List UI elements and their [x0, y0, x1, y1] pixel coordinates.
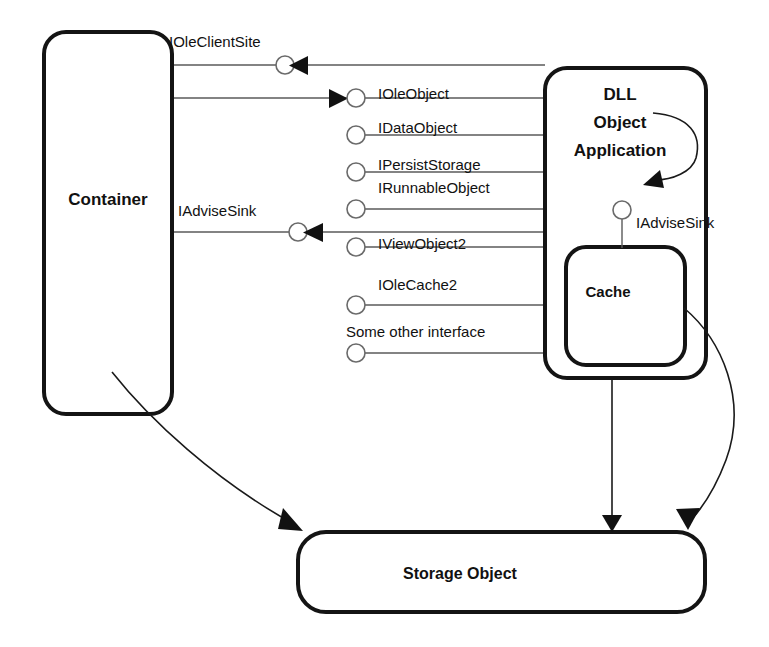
ole-architecture-diagram: Container DLL Object Application Cache S…	[0, 0, 769, 647]
dll-app-label-line1: DLL	[603, 85, 636, 104]
arrowhead-dll-to-storage	[602, 515, 622, 532]
lollipop-iolecache2[interactable]	[347, 296, 365, 314]
lollipop-iadvisesink-cache[interactable]	[613, 201, 631, 219]
lollipop-ipersiststorage[interactable]	[347, 163, 365, 181]
label-iadvisesink-cache: IAdviseSink	[636, 214, 715, 231]
dll-app-label-line2: Object	[594, 113, 647, 132]
label-iadvisesink-container: IAdviseSink	[178, 202, 257, 219]
label-ioleobject: IOleObject	[378, 85, 450, 102]
arrowhead-cache-to-storage	[676, 508, 700, 530]
label-some-other-interface: Some other interface	[346, 323, 485, 340]
lollipop-iviewobject2[interactable]	[347, 238, 365, 256]
label-iolecache2: IOleCache2	[378, 276, 457, 293]
lollipop-some-other-interface[interactable]	[347, 344, 365, 362]
arrowhead-ioleobject	[329, 89, 348, 108]
label-ioleclientsite: IOleClientSite	[169, 33, 261, 50]
container-box[interactable]	[44, 32, 172, 414]
label-idataobject: IDataObject	[378, 119, 458, 136]
arrowhead-container-to-storage	[278, 508, 303, 531]
label-ipersiststorage: IPersistStorage	[378, 156, 481, 173]
dll-app-label-line3: Application	[574, 141, 667, 160]
lollipop-irunnableobject[interactable]	[347, 200, 365, 218]
container-label: Container	[68, 190, 148, 209]
cache-label: Cache	[585, 283, 630, 300]
cache-box[interactable]	[566, 247, 685, 365]
storage-object-label: Storage Object	[403, 565, 517, 582]
label-iviewobject2: IViewObject2	[378, 235, 466, 252]
lollipop-ioleobject[interactable]	[347, 89, 365, 107]
label-irunnableobject: IRunnableObject	[378, 179, 491, 196]
arrowhead-iadvisesink	[303, 223, 323, 242]
diagram-canvas: Container DLL Object Application Cache S…	[0, 0, 769, 647]
lollipop-idataobject[interactable]	[347, 126, 365, 144]
